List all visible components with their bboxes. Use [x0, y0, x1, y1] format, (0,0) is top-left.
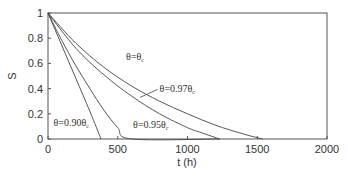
x-tick-label: 0 [45, 143, 51, 155]
y-tick-label: 1 [37, 7, 43, 19]
y-tick-label: 0.4 [28, 83, 43, 95]
plot-frame [48, 13, 327, 139]
x-tick-label: 2000 [315, 143, 339, 155]
curve-label: θ=θc [126, 51, 144, 63]
y-tick-label: 0.8 [28, 32, 43, 44]
x-tick-label: 1500 [245, 143, 269, 155]
curve-label: θ=0.95θc [133, 119, 169, 131]
y-tick-label: 0 [37, 133, 43, 145]
line-chart: 0500100015002000 00.20.40.60.81 t (h) S … [0, 0, 348, 177]
x-tick-label: 500 [109, 143, 127, 155]
x-axis-label: t (h) [177, 156, 197, 168]
x-tick-label: 1000 [175, 143, 199, 155]
y-tick-label: 0.6 [28, 57, 43, 69]
curve-label: θ=0.90θc [54, 117, 90, 129]
y-tick-label: 0.2 [28, 108, 43, 120]
y-axis-label: S [6, 72, 18, 79]
curve-label: θ=0.97θc [160, 83, 196, 95]
